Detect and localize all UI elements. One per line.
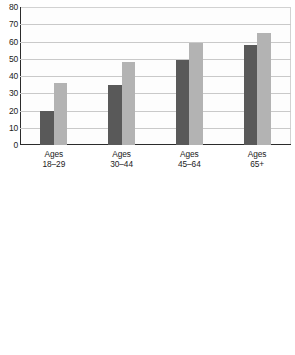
y-axis-tick-label: 40 xyxy=(9,72,18,81)
y-axis-tick-label: 0 xyxy=(13,141,18,150)
chart-by-age: 01020304050607080 Ages 18–29Ages 30–44Ag… xyxy=(0,0,295,178)
bar-2018 xyxy=(189,43,203,145)
chart-page: 01020304050607080 Ages 18–29Ages 30–44Ag… xyxy=(0,0,295,355)
axis-top xyxy=(20,7,291,8)
y-axis-tick-label: 20 xyxy=(9,106,18,115)
bar-2014 xyxy=(176,60,190,145)
gridline xyxy=(20,42,291,43)
bar-2018 xyxy=(54,83,68,145)
bar-2014 xyxy=(40,111,54,145)
chart-by-education: 01020304050607080 20142018 Less than hig… xyxy=(0,178,295,355)
y-axis-tick-label: 70 xyxy=(9,20,18,29)
x-axis-category-label: Ages 65+ xyxy=(218,150,295,169)
bar-2014 xyxy=(108,85,122,145)
y-axis-tick-label: 10 xyxy=(9,124,18,133)
y-axis-tick-label: 30 xyxy=(9,89,18,98)
y-axis-tick-label: 50 xyxy=(9,55,18,64)
bar-2014 xyxy=(244,45,258,145)
bar-2018 xyxy=(257,33,271,145)
gridline xyxy=(20,24,291,25)
bar-2018 xyxy=(122,62,136,145)
y-axis-tick-label: 80 xyxy=(9,3,18,12)
plot-area-by-age xyxy=(20,7,291,145)
y-axis-tick-label: 60 xyxy=(9,37,18,46)
